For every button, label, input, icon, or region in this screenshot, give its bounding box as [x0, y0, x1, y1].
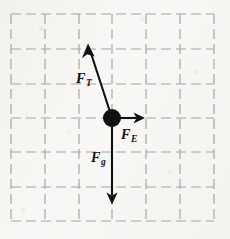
free-body-diagram-figure: FT FE Fg — [0, 0, 230, 239]
force-label-tension: FT — [76, 72, 92, 89]
tension-subscript: T — [86, 78, 92, 88]
force-label-electric: FE — [121, 128, 137, 145]
gravity-subscript: g — [101, 157, 106, 167]
charged-bob-particle — [103, 109, 121, 127]
gravity-symbol: F — [91, 150, 101, 165]
force-vector-gravity — [106, 118, 117, 205]
electric-symbol: F — [121, 127, 131, 142]
tension-symbol: F — [76, 71, 86, 86]
force-vector-layer — [0, 0, 230, 239]
force-label-gravity: Fg — [91, 151, 106, 168]
electric-subscript: E — [131, 134, 138, 144]
tension-shaft — [91, 52, 112, 118]
